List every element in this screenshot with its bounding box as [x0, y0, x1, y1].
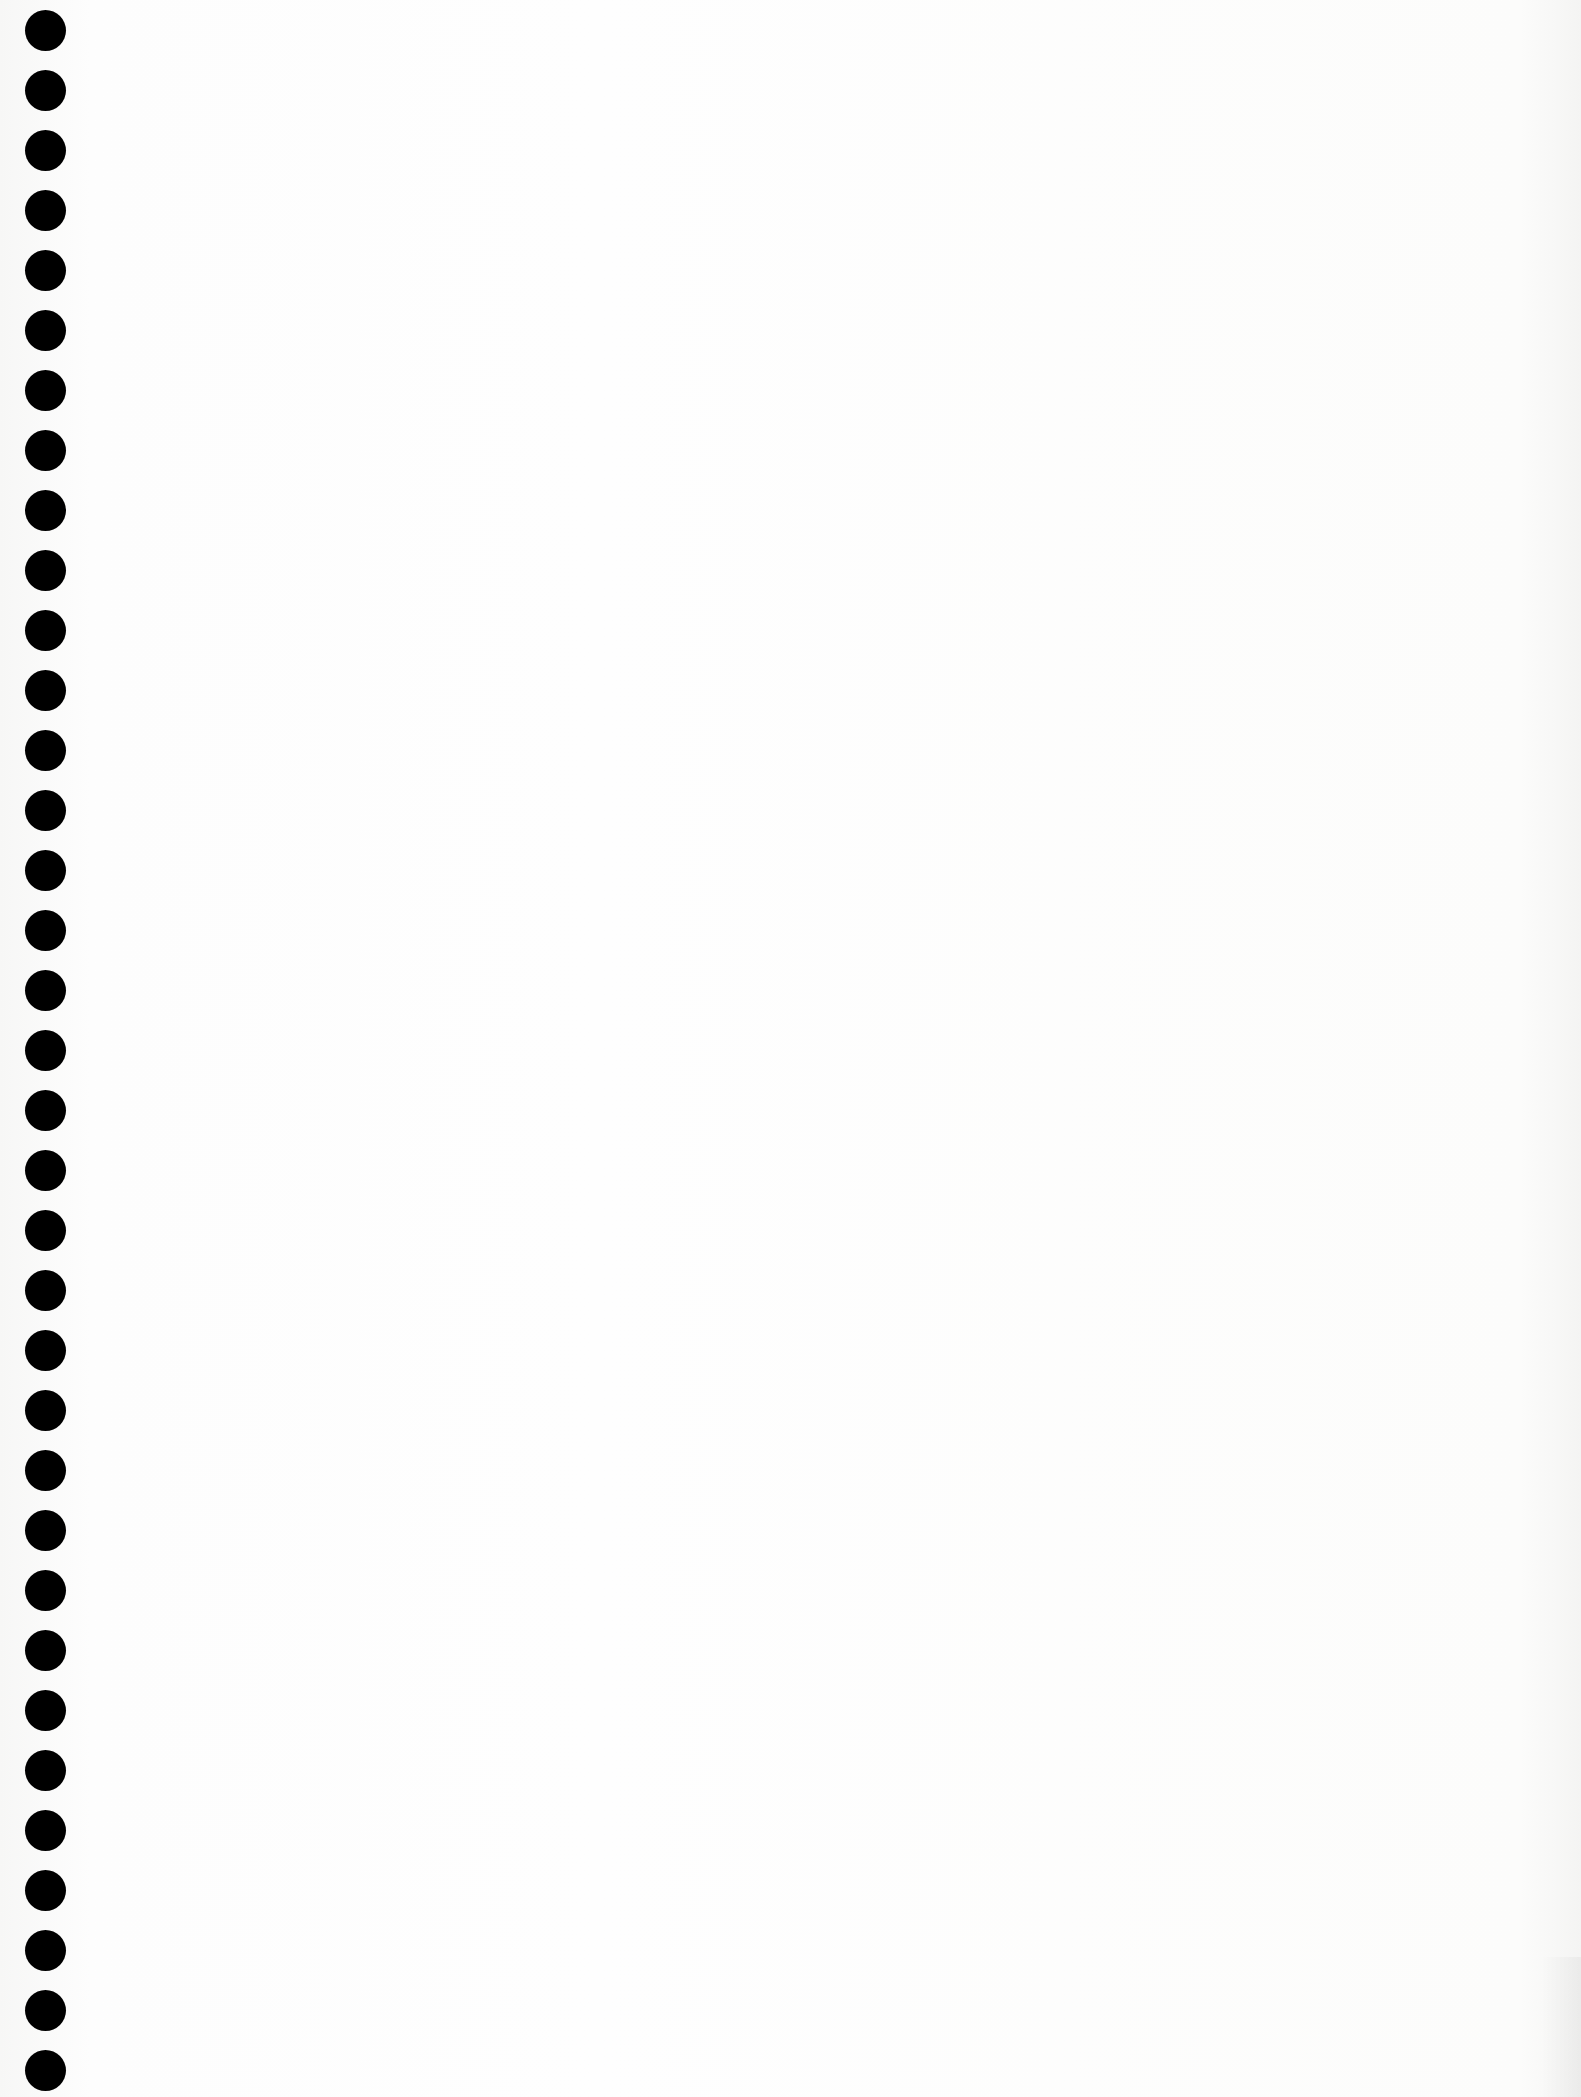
binding-hole — [25, 1270, 66, 1311]
binding-hole — [25, 130, 66, 171]
binding-hole — [25, 1330, 66, 1371]
binding-hole — [25, 1630, 66, 1671]
page-edge-shadow — [1541, 1957, 1581, 2097]
binding-hole — [25, 1510, 66, 1551]
binding-hole — [25, 2050, 66, 2091]
binding-hole — [25, 790, 66, 831]
binding-hole — [25, 490, 66, 531]
binding-hole — [25, 1750, 66, 1791]
binding-hole — [25, 1030, 66, 1071]
binding-hole — [25, 430, 66, 471]
binding-hole — [25, 1210, 66, 1251]
binding-hole — [25, 1810, 66, 1851]
binding-hole — [25, 1090, 66, 1131]
binding-hole — [25, 610, 66, 651]
binding-hole — [25, 370, 66, 411]
binding-hole — [25, 1990, 66, 2031]
binding-hole — [25, 970, 66, 1011]
binding-hole — [25, 1870, 66, 1911]
binding-hole — [25, 1450, 66, 1491]
binding-hole — [25, 1150, 66, 1191]
binding-hole — [25, 550, 66, 591]
binding-hole — [25, 1690, 66, 1731]
binding-hole — [25, 310, 66, 351]
binding-hole — [25, 1570, 66, 1611]
binding-hole — [25, 1930, 66, 1971]
notebook-page — [0, 0, 1581, 2097]
binding-hole — [25, 190, 66, 231]
binding-hole — [25, 730, 66, 771]
binding-hole — [25, 850, 66, 891]
binding-hole — [25, 670, 66, 711]
binding-hole — [25, 250, 66, 291]
binding-hole — [25, 1390, 66, 1431]
binding-hole — [25, 10, 66, 51]
binding-hole — [25, 70, 66, 111]
binding-hole — [25, 910, 66, 951]
